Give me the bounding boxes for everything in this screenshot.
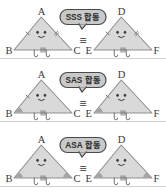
leg-left [34,178,37,185]
bubble-tail [79,87,86,92]
eye-left [36,159,39,162]
vertex-label-apex-right: D [118,134,126,145]
bubble-label: SSS 합동 [66,12,101,22]
eye-right [44,159,47,162]
triangle-legs [34,178,49,185]
leg-left [114,50,117,57]
eye-left [36,94,39,97]
leg-left [34,50,37,57]
congruence-row-asa: ASA 합동≡ABCDEF [0,128,166,193]
triangle-legs [114,178,129,185]
vertex-label-br-left: C [74,45,81,56]
eye-left [116,31,119,34]
vertex-label-br-left: C [74,173,81,184]
vertex-label-bl-left: B [6,108,13,119]
eye-left [116,159,119,162]
triangle-legs [114,113,129,120]
bubble-tail [79,24,86,29]
triangle-legs [114,50,129,57]
leg-left [34,113,37,120]
bubble-label: SAS 합동 [65,75,100,85]
vertex-label-apex-right: D [118,69,126,80]
speech-bubble[interactable]: SAS 합동 [60,73,106,93]
congruence-row-sas: SAS 합동≡ABCDEF [0,63,166,128]
vertex-label-br-right: F [154,45,160,56]
row-graphic: ASA 합동≡ABCDEF [0,128,166,193]
vertex-label-apex-left: A [38,134,46,145]
speech-bubble[interactable]: SSS 합동 [60,10,106,30]
vertex-label-br-right: F [154,173,160,184]
illustration-canvas: SSS 합동≡ABCDEFSAS 합동≡ABCDEFASA 합동≡ABCDEF [0,0,166,195]
row-graphic: SSS 합동≡ABCDEF [0,0,166,65]
eye-right [124,31,127,34]
congruence-row-sss: SSS 합동≡ABCDEF [0,0,166,65]
leg-right [46,50,49,57]
eye-right [44,94,47,97]
triangle-legs [34,113,49,120]
leg-left [114,113,117,120]
leg-right [126,178,129,185]
eye-left [116,94,119,97]
vertex-label-br-right: F [154,108,160,119]
vertex-label-bl-right: E [86,45,92,56]
leg-right [46,113,49,120]
leg-right [126,113,129,120]
bubble-tail [79,152,86,157]
vertex-label-apex-left: A [38,6,46,17]
leg-left [114,178,117,185]
bubble-label: ASA 합동 [65,140,100,150]
eye-right [44,31,47,34]
vertex-label-br-left: C [74,108,81,119]
row-graphic: SAS 합동≡ABCDEF [0,63,166,128]
eye-right [124,94,127,97]
vertex-label-bl-right: E [86,173,92,184]
eye-left [36,31,39,34]
leg-right [126,50,129,57]
vertex-label-bl-left: B [6,45,13,56]
triangle-legs [34,50,49,57]
vertex-label-apex-right: D [118,6,126,17]
vertex-label-apex-left: A [38,69,46,80]
leg-right [46,178,49,185]
eye-right [124,159,127,162]
speech-bubble[interactable]: ASA 합동 [60,138,106,158]
vertex-label-bl-left: B [6,173,13,184]
vertex-label-bl-right: E [86,108,92,119]
